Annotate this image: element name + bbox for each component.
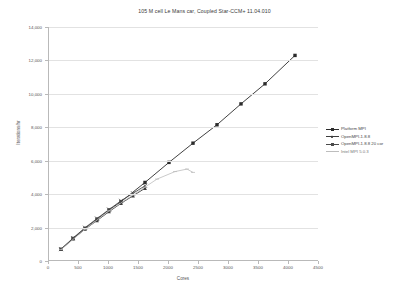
data-point-marker [239,102,242,105]
legend-item-0[interactable]: Platform MPI [326,126,406,132]
x-tick-label: 4000 [283,265,293,270]
legend-label: Platform MPI [341,126,366,132]
y-gridline [49,94,318,95]
y-tick-mark [45,228,48,229]
x-tick-mark [318,261,319,264]
x-tick-label: 1500 [133,265,143,270]
x-tick-label: 2500 [193,265,203,270]
legend-marker-icon [331,150,334,153]
series-line [61,169,193,250]
x-tick-label: 3500 [253,265,263,270]
legend-marker-icon [331,135,333,138]
y-gridline [49,161,318,162]
data-series-layer [49,27,319,261]
y-tick-label: 10,000 [0,91,47,96]
y-tick-mark [45,94,48,95]
x-tick-label: 0 [47,265,49,270]
x-axis-title: Cores [48,276,318,281]
legend-item-2[interactable]: OpenMPI-1.8.8 20 cor [326,141,406,147]
data-point-marker [293,54,296,57]
y-tick-label: 8,000 [0,125,47,130]
y-tick-label: 12,000 [0,58,47,63]
x-tick-mark [168,261,169,264]
y-tick-label: 2,000 [0,225,47,230]
y-axis-title: Iterations/hr [16,103,21,163]
legend-swatch-icon [326,126,339,132]
y-tick-mark [45,127,48,128]
x-tick-label: 1000 [103,265,113,270]
x-tick-mark [258,261,259,264]
x-tick-mark [138,261,139,264]
x-tick-mark [288,261,289,264]
data-point-marker [263,82,266,85]
y-tick-label: 4,000 [0,192,47,197]
legend-swatch-icon [326,149,339,155]
legend-swatch-icon [326,141,339,147]
y-gridline [49,127,318,128]
legend-marker-icon [331,128,334,131]
x-tick-mark [78,261,79,264]
y-tick-mark [45,27,48,28]
chart-title: 105 M cell Le Mans car, Coupled Star-CCM… [0,8,409,14]
plot-area [48,27,318,261]
legend-label: OpenMPI-1.8.8 [341,134,370,140]
data-point-marker [143,181,146,184]
chart-legend: Platform MPIOpenMPI-1.8.8OpenMPI-1.8.8 2… [326,126,406,156]
x-tick-mark [228,261,229,264]
data-point-marker [191,141,194,144]
y-tick-mark [45,194,48,195]
y-gridline [49,194,318,195]
chart-container: 105 M cell Le Mans car, Coupled Star-CCM… [0,0,409,295]
x-tick-label: 3000 [223,265,233,270]
legend-marker-icon [331,143,334,146]
x-tick-mark [48,261,49,264]
x-tick-mark [108,261,109,264]
x-tick-mark [198,261,199,264]
legend-label: OpenMPI-1.8.8 20 cor [341,141,383,147]
y-tick-label: 6,000 [0,158,47,163]
legend-item-3[interactable]: Intel MPI 5.0.3 [326,149,406,155]
x-tick-label: 4500 [313,265,323,270]
y-gridline [49,27,318,28]
x-tick-label: 500 [74,265,81,270]
y-tick-mark [45,161,48,162]
series-3 [59,169,195,250]
y-gridline [49,228,318,229]
series-1 [59,186,147,251]
data-point-marker [215,123,218,126]
y-tick-mark [45,60,48,61]
x-tick-label: 2000 [163,265,173,270]
legend-label: Intel MPI 5.0.3 [341,149,369,155]
legend-swatch-icon [326,134,339,140]
legend-item-1[interactable]: OpenMPI-1.8.8 [326,134,406,140]
y-gridline [49,60,318,61]
y-tick-label: 14,000 [0,25,47,30]
y-tick-label: 0 [0,259,47,264]
